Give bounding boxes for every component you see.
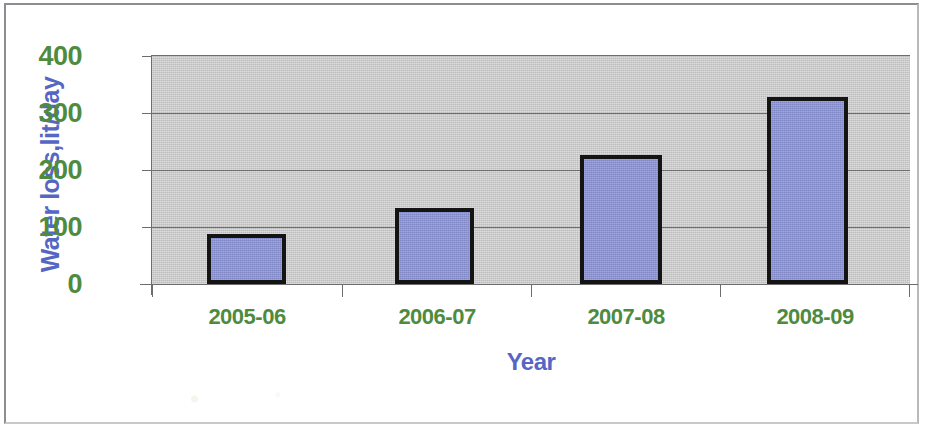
x-tick-mark-2 [531, 285, 532, 297]
y-tick-label-200: 200 [10, 157, 82, 184]
bar-chart: Water loss,lit/day 400 300 200 100 0 [0, 0, 926, 429]
y-tick-label-0: 0 [10, 271, 82, 298]
x-axis-line [140, 284, 918, 285]
x-tick-label-2008-09: 2008-09 [730, 304, 900, 330]
x-tick-mark-1 [342, 285, 343, 297]
y-tick-label-300: 300 [10, 100, 82, 127]
x-tick-label-2005-06: 2005-06 [162, 304, 332, 330]
x-tick-label-2006-07: 2006-07 [352, 304, 522, 330]
figure-page: Water loss,lit/day 400 300 200 100 0 [0, 0, 926, 429]
y-tick-label-400: 400 [10, 43, 82, 70]
x-tick-mark-0 [152, 285, 153, 297]
bar-2008-09[interactable] [767, 97, 848, 284]
x-tick-mark-3 [720, 285, 721, 297]
bar-2007-08[interactable] [580, 155, 662, 284]
x-axis-title: Year [152, 348, 910, 376]
y-tick-label-100: 100 [10, 214, 82, 241]
plot-area [152, 55, 910, 284]
x-tick-label-2007-08: 2007-08 [541, 304, 711, 330]
bar-2005-06[interactable] [207, 234, 286, 284]
x-tick-mark-4 [909, 285, 910, 297]
bar-2006-07[interactable] [395, 208, 474, 284]
